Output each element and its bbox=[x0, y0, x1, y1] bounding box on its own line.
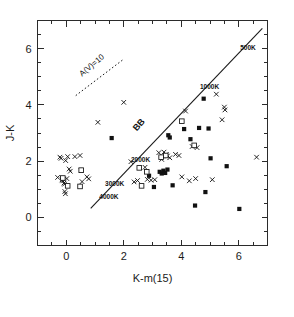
data-point-cross bbox=[55, 175, 60, 180]
annotation-500k: 500K bbox=[240, 44, 256, 51]
data-point-filled-square bbox=[171, 183, 175, 187]
data-point-cross bbox=[121, 100, 126, 105]
data-point-cross bbox=[187, 179, 192, 184]
data-point-cross bbox=[78, 153, 83, 158]
data-point-cross bbox=[96, 120, 101, 125]
data-point-open-square bbox=[65, 184, 70, 189]
data-point-open-square bbox=[180, 119, 185, 124]
data-point-filled-square bbox=[110, 136, 114, 140]
annotation-3000k: 3000K bbox=[105, 180, 124, 187]
x-tick-label: 6 bbox=[236, 250, 242, 262]
data-point-filled-square bbox=[182, 127, 186, 131]
data-point-cross bbox=[80, 179, 85, 184]
data-point-cross bbox=[73, 154, 78, 159]
x-tick-label: 0 bbox=[63, 250, 69, 262]
data-point-filled-square bbox=[188, 137, 192, 141]
data-point-cross bbox=[254, 155, 259, 160]
data-point-open-square bbox=[139, 184, 144, 189]
data-point-open-square bbox=[137, 166, 142, 171]
data-point-cross bbox=[173, 152, 178, 157]
data-point-cross bbox=[157, 150, 162, 155]
data-point-filled-square bbox=[193, 203, 197, 207]
data-point-cross bbox=[59, 156, 64, 161]
data-point-cross bbox=[177, 153, 182, 158]
data-point-cross bbox=[143, 165, 148, 170]
x-axis-title: K-m(15) bbox=[133, 272, 173, 284]
y-axis-title: J-K bbox=[4, 124, 16, 141]
data-point-open-square bbox=[78, 184, 83, 189]
data-point-cross bbox=[214, 92, 219, 97]
axis-ticks bbox=[38, 21, 268, 246]
data-point-filled-square bbox=[197, 126, 201, 130]
data-point-filled-square bbox=[225, 164, 229, 168]
data-point-filled-square bbox=[152, 185, 156, 189]
data-point-open-square bbox=[79, 168, 84, 173]
data-point-filled-square bbox=[203, 190, 207, 194]
y-tick-label: 4 bbox=[25, 99, 31, 111]
data-point-open-square bbox=[144, 170, 149, 175]
y-tick-label: 0 bbox=[25, 211, 31, 223]
data-point-filled-square bbox=[206, 126, 210, 130]
data-point-filled-square bbox=[202, 97, 206, 101]
data-point-filled-square bbox=[208, 156, 212, 160]
data-point-filled-square bbox=[165, 167, 169, 171]
plot-frame bbox=[38, 21, 268, 246]
data-point-open-square bbox=[192, 143, 197, 148]
data-point-cross bbox=[210, 177, 215, 182]
cross-sources bbox=[55, 92, 259, 196]
x-tick-label: 4 bbox=[178, 250, 184, 262]
data-point-open-square bbox=[61, 176, 66, 181]
annotation-2000k: 2000K bbox=[131, 156, 150, 163]
annotation-av10: A(V)=10 bbox=[78, 52, 107, 78]
data-point-cross bbox=[193, 176, 198, 181]
annotation-1000k: 1000K bbox=[200, 83, 219, 90]
data-point-open-square bbox=[163, 153, 168, 158]
data-point-cross bbox=[86, 177, 91, 182]
data-point-open-square bbox=[159, 155, 164, 160]
data-point-cross bbox=[220, 117, 225, 122]
annotation-4000k: 4000K bbox=[99, 193, 118, 200]
data-point-filled-square bbox=[168, 135, 172, 139]
plot-canvas: A(V)=10BB500K1000K2000K3000K4000K0246024… bbox=[0, 0, 294, 317]
data-point-filled-square bbox=[237, 207, 241, 211]
x-tick-label: 2 bbox=[121, 250, 127, 262]
scatter-plot-figure: A(V)=10BB500K1000K2000K3000K4000K0246024… bbox=[0, 0, 294, 317]
data-point-cross bbox=[153, 177, 158, 182]
annotation-bb: BB bbox=[131, 116, 147, 133]
y-tick-label: 6 bbox=[25, 43, 31, 55]
y-tick-label: 2 bbox=[25, 155, 31, 167]
data-point-cross bbox=[180, 175, 185, 180]
